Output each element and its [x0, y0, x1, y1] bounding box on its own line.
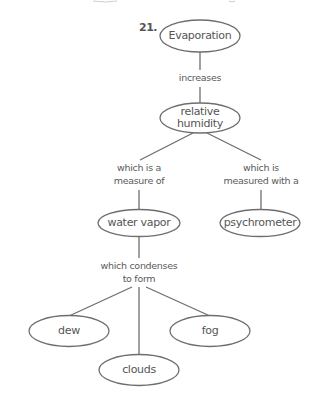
node-water-vapor-label: water vapor: [107, 216, 171, 229]
node-dew: dew: [29, 316, 109, 347]
node-evaporation: Evaporation: [160, 20, 240, 52]
node-dew-label: dew: [58, 324, 80, 337]
node-relative-humidity-label-line2: humidity: [177, 117, 224, 130]
concept-map: 21. Evaporation increases relative humid…: [0, 0, 317, 411]
node-water-vapor: water vapor: [98, 210, 180, 237]
node-clouds: clouds: [99, 355, 179, 386]
node-psychrometer-label: psychrometer: [224, 216, 298, 229]
node-psychrometer: psychrometer: [220, 210, 300, 237]
link-condenses-line2: to form: [123, 273, 156, 284]
edge-condenses-fog: [146, 287, 210, 316]
edge-humidity-measured-with: [207, 133, 261, 160]
cropped-shape-right: [229, 1, 235, 2]
cropped-shape-left: [93, 1, 117, 2]
edges: [69, 52, 261, 355]
link-condenses-line1: which condenses: [101, 260, 178, 271]
node-clouds-label: clouds: [122, 363, 156, 376]
node-relative-humidity: relative humidity: [160, 103, 240, 133]
link-measured-with-line2: measured with a: [224, 175, 299, 186]
edge-condenses-dew: [69, 287, 132, 316]
question-number: 21.: [139, 21, 157, 34]
link-measured-with-line1: which is: [243, 162, 279, 173]
node-fog-label: fog: [202, 324, 219, 337]
edge-humidity-measure-of: [140, 133, 193, 160]
link-increases: increases: [179, 72, 222, 83]
node-fog: fog: [170, 316, 250, 347]
link-measure-of-line1: which is a: [117, 162, 161, 173]
link-measure-of-line2: measure of: [114, 175, 166, 186]
node-evaporation-label: Evaporation: [169, 29, 232, 42]
